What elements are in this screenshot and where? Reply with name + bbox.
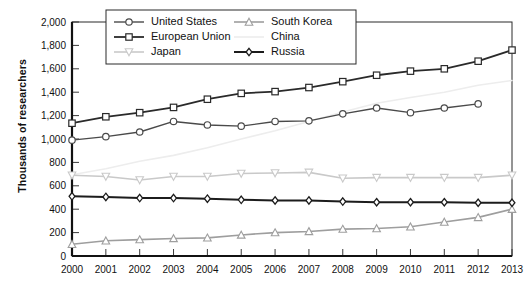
data-point-marker <box>373 72 379 78</box>
legend-label: China <box>271 30 301 42</box>
data-point-marker <box>407 109 413 115</box>
data-point-marker <box>272 88 278 94</box>
data-point-marker <box>136 129 142 135</box>
data-point-marker <box>171 194 177 201</box>
y-tick-label: 600 <box>49 180 66 191</box>
series-united-states <box>69 101 482 144</box>
x-tick-label: 2006 <box>264 264 287 275</box>
y-tick-label: 200 <box>49 227 66 238</box>
series-south-korea <box>68 205 516 247</box>
data-point-marker <box>272 118 278 124</box>
x-tick-label: 2003 <box>162 264 185 275</box>
data-point-marker <box>69 120 75 126</box>
researchers-line-chart: Thousands of researchers 02004006008001,… <box>0 0 527 284</box>
data-point-marker <box>340 78 346 84</box>
data-point-marker <box>137 194 143 201</box>
series-group <box>68 47 516 248</box>
y-tick-label: 800 <box>49 157 66 168</box>
y-tick-label: 1,200 <box>41 110 66 121</box>
data-point-marker <box>69 137 75 143</box>
chart-legend: United StatesEuropean UnionJapanSouth Ko… <box>106 10 356 64</box>
data-point-marker <box>103 193 109 200</box>
y-tick-label: 1,000 <box>41 134 66 145</box>
data-point-marker <box>441 198 447 205</box>
data-point-marker <box>408 198 414 205</box>
data-point-marker <box>475 101 481 107</box>
x-tick-label: 2000 <box>61 264 84 275</box>
data-point-marker <box>238 196 244 203</box>
series-line <box>72 81 512 175</box>
x-tick-label: 2008 <box>332 264 355 275</box>
data-point-marker <box>441 105 447 111</box>
data-point-marker <box>204 195 210 202</box>
data-point-marker <box>509 199 515 206</box>
data-point-marker <box>103 133 109 139</box>
data-point-marker <box>509 47 515 53</box>
data-point-marker <box>306 118 312 124</box>
data-point-marker <box>238 123 244 129</box>
x-tick-label: 2009 <box>365 264 388 275</box>
data-point-marker <box>69 193 75 200</box>
x-tick-label: 2010 <box>399 264 422 275</box>
legend-label: Japan <box>151 45 181 57</box>
data-point-marker <box>103 114 109 120</box>
data-point-marker <box>204 122 210 128</box>
x-tick-label: 2004 <box>196 264 219 275</box>
legend-label: United States <box>151 15 218 27</box>
y-tick-label: 1,400 <box>41 87 66 98</box>
x-tick-label: 2011 <box>434 264 456 275</box>
legend-swatch-marker <box>126 34 132 40</box>
data-point-marker <box>340 198 346 205</box>
data-point-marker <box>306 197 312 204</box>
y-tick-label: 1,600 <box>41 63 66 74</box>
data-point-marker <box>306 84 312 90</box>
y-tick-label: 2,000 <box>41 17 66 28</box>
data-point-marker <box>407 68 413 74</box>
series-china <box>72 81 512 175</box>
legend-label: South Korea <box>271 15 333 27</box>
legend-label: European Union <box>151 30 231 42</box>
y-tick-label: 400 <box>49 204 66 215</box>
data-point-marker <box>204 96 210 102</box>
data-point-marker <box>475 199 481 206</box>
data-point-marker <box>170 104 176 110</box>
data-point-marker <box>373 105 379 111</box>
y-tick-label: 0 <box>60 251 66 262</box>
legend-label: Russia <box>271 45 306 57</box>
x-axis-tick-group: 2000200120022003200420052006200720082009… <box>61 249 524 275</box>
x-tick-label: 2007 <box>298 264 321 275</box>
x-tick-label: 2012 <box>467 264 490 275</box>
x-tick-label: 2001 <box>95 264 118 275</box>
x-tick-label: 2002 <box>129 264 152 275</box>
legend-swatch-marker <box>126 19 132 25</box>
data-point-marker <box>374 198 380 205</box>
plot-area: 02004006008001,0001,2001,4001,6001,8002,… <box>0 0 527 284</box>
data-point-marker <box>340 111 346 117</box>
data-point-marker <box>136 109 142 115</box>
data-point-marker <box>475 58 481 64</box>
series-japan <box>68 169 516 184</box>
x-tick-label: 2013 <box>501 264 524 275</box>
series-russia <box>69 193 515 207</box>
x-tick-label: 2005 <box>230 264 253 275</box>
data-point-marker <box>272 197 278 204</box>
data-point-marker <box>441 66 447 72</box>
data-point-marker <box>170 118 176 124</box>
data-point-marker <box>238 90 244 96</box>
y-tick-label: 1,800 <box>41 40 66 51</box>
